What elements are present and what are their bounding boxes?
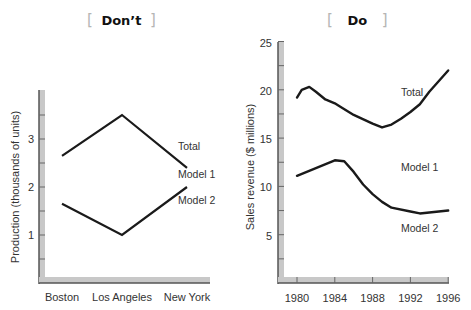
y-tick-label: 1 (28, 229, 34, 241)
y-tick-label: 10 (260, 181, 272, 193)
y-tick-label: 15 (260, 133, 272, 145)
do-chart-panel: [ Do ] 510152025Sales revenue ($ million… (235, 0, 471, 310)
y-tick-label: 2 (28, 181, 34, 193)
y-tick-label: 3 (28, 133, 34, 145)
x-tick-label: 1980 (285, 292, 309, 304)
x-category-label: New York (164, 291, 211, 303)
y-tick-label: 25 (260, 37, 272, 49)
series-label: Model 1 (401, 161, 439, 173)
y-tick-label: 5 (266, 230, 272, 242)
x-axis-bar (39, 277, 210, 283)
x-category-label: Los Angeles (92, 291, 152, 303)
series-label: Total (401, 86, 423, 98)
series-line-total (297, 70, 448, 127)
x-tick-label: 1996 (436, 292, 460, 304)
dont-line-chart: 123Production (thousands of units)Boston… (0, 0, 235, 310)
x-category-label: Boston (45, 291, 79, 303)
y-axis-label: Production (thousands of units) (9, 111, 21, 263)
series-label: Model 1 (178, 168, 216, 180)
series-label: Model 2 (178, 194, 216, 206)
series-label: Model 2 (401, 222, 439, 234)
series-line-total (62, 115, 187, 168)
dont-chart-panel: [ Don’t ] 123Production (thousands of un… (0, 0, 235, 310)
y-tick-label: 20 (260, 85, 272, 97)
x-tick-label: 1992 (398, 292, 422, 304)
x-tick-label: 1988 (360, 292, 384, 304)
y-axis-label: Sales revenue ($ millions) (244, 104, 256, 231)
series-label: Total (178, 140, 200, 152)
x-tick-label: 1984 (323, 292, 347, 304)
series-line-model-2 (62, 187, 187, 235)
do-line-chart: 510152025Sales revenue ($ millions)19801… (235, 0, 471, 310)
x-axis-bar (278, 277, 449, 283)
